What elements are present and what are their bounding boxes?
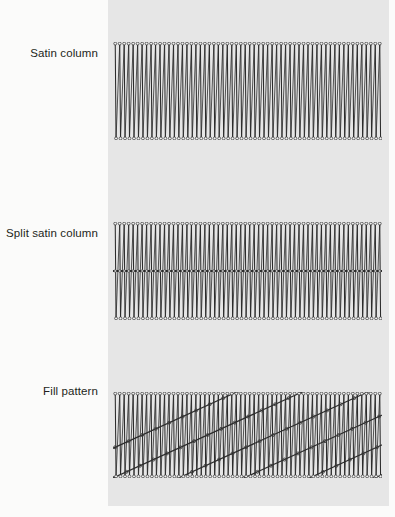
label-satin-column: Satin column: [30, 48, 98, 60]
stitch-band-satin-column: [113, 42, 382, 140]
stitch-band-split-satin-column: [113, 222, 382, 320]
label-fill-pattern: Fill pattern: [43, 386, 98, 398]
stitch-band-fill-pattern: [113, 392, 382, 478]
label-split-satin-column: Split satin column: [6, 228, 98, 240]
stitch-type-figure: Satin column Split satin column Fill pat…: [0, 0, 395, 517]
